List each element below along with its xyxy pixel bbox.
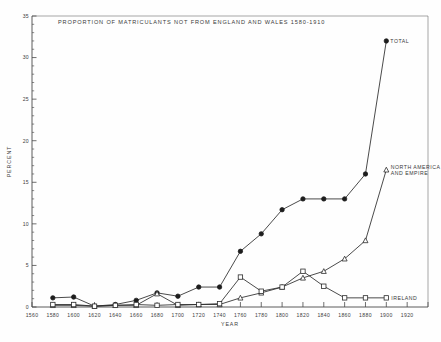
y-tick-label: 30 [23, 54, 29, 60]
data-point [197, 302, 201, 306]
x-tick-label: 1600 [67, 312, 80, 318]
data-point [363, 296, 367, 300]
y-tick-label: 15 [23, 179, 29, 185]
data-point [134, 302, 138, 306]
data-point [238, 249, 242, 253]
y-tick-label: 25 [23, 96, 29, 102]
data-point [217, 301, 221, 305]
data-point [217, 285, 221, 289]
x-tick-label: 1840 [317, 312, 330, 318]
x-tick-label: 1620 [88, 312, 101, 318]
data-point [322, 197, 326, 201]
data-point [384, 39, 388, 43]
data-point [301, 197, 305, 201]
x-tick-label: 1820 [297, 312, 310, 318]
series-total [51, 39, 389, 309]
data-point [342, 296, 346, 300]
data-point [280, 208, 284, 212]
chart-svg: 0510152025303515601580160016201640166016… [0, 0, 441, 342]
x-tick-label: 1800 [276, 312, 289, 318]
data-point [363, 172, 367, 176]
data-point [363, 238, 368, 243]
data-point [176, 294, 180, 298]
data-point [301, 269, 305, 273]
data-point [321, 269, 326, 274]
x-tick-label: 1680 [151, 312, 164, 318]
y-tick-label: 5 [26, 262, 29, 268]
y-tick-label: 35 [23, 13, 29, 19]
series-label-ireland: IRELAND [391, 295, 417, 301]
data-point [280, 285, 284, 289]
data-point [71, 302, 75, 306]
x-tick-label: 1700 [172, 312, 185, 318]
y-tick-label: 0 [26, 304, 29, 310]
x-tick-label: 1780 [255, 312, 268, 318]
x-tick-label: 1760 [234, 312, 247, 318]
x-tick-label: 1720 [192, 312, 205, 318]
chart-figure: 0510152025303515601580160016201640166016… [0, 0, 441, 342]
data-point [259, 232, 263, 236]
y-tick-label: 20 [23, 138, 29, 144]
data-point [259, 289, 263, 293]
data-point [238, 275, 242, 279]
series-label-total: TOTAL [390, 38, 409, 44]
data-point [155, 303, 159, 307]
y-axis-title: PERCENT [6, 146, 12, 178]
data-point [322, 284, 326, 288]
series-line [53, 41, 386, 306]
data-point [342, 197, 346, 201]
x-tick-label: 1660 [130, 312, 143, 318]
x-tick-label: 1860 [338, 312, 351, 318]
x-tick-label: 1900 [380, 312, 393, 318]
data-point [51, 302, 55, 306]
x-tick-label: 1740 [213, 312, 226, 318]
x-tick-label: 1560 [26, 312, 39, 318]
chart-title: PROPORTION OF MATRICULANTS NOT FROM ENGL… [58, 19, 325, 25]
data-point [384, 296, 388, 300]
data-point [51, 296, 55, 300]
x-axis-title: YEAR [221, 321, 239, 327]
data-point [113, 303, 117, 307]
x-tick-label: 1640 [109, 312, 122, 318]
data-point [384, 167, 389, 172]
y-tick-label: 10 [23, 221, 29, 227]
x-tick-label: 1580 [46, 312, 59, 318]
series-label-north-america-line2: AND EMPIRE [391, 170, 428, 176]
data-point [71, 295, 75, 299]
data-point [92, 304, 96, 308]
data-point [197, 285, 201, 289]
x-tick-label: 1920 [401, 312, 414, 318]
data-point [176, 302, 180, 306]
x-tick-label: 1880 [359, 312, 372, 318]
